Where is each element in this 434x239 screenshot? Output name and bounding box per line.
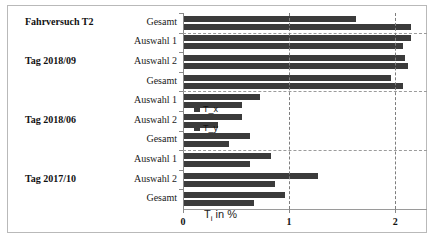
legend-swatch-t-x: [194, 106, 200, 112]
group-title: Tag 2018/06: [25, 114, 76, 125]
bar-t-x: [184, 94, 260, 100]
legend-item-t-x[interactable]: T_x: [194, 104, 248, 114]
row-label: Auswahl 1: [97, 153, 183, 164]
x-tick-label: 0: [181, 216, 186, 227]
x-tick-label: 1: [287, 216, 292, 227]
y-tick-mark: [179, 170, 183, 171]
x-axis-title-unit: in %: [213, 208, 237, 220]
y-tick-mark: [179, 72, 183, 73]
y-tick-mark: [179, 131, 183, 132]
row-label: Auswahl 2: [97, 55, 183, 66]
bar-t-x: [184, 173, 318, 179]
group-separator: [183, 33, 427, 34]
bar-t-y: [184, 83, 403, 89]
bar-t-x: [184, 55, 405, 61]
row-label: Gesamt: [97, 75, 183, 86]
bar-t-y: [184, 200, 254, 206]
x-tick-mark: [183, 209, 184, 213]
bar-t-x: [184, 75, 391, 81]
y-tick-mark: [179, 91, 183, 92]
chart-legend: T_x T_y: [194, 104, 248, 142]
y-tick-mark: [179, 189, 183, 190]
y-tick-mark: [179, 52, 183, 53]
row-label: Gesamt: [97, 133, 183, 144]
bar-t-x: [184, 153, 271, 159]
bar-t-y: [184, 161, 250, 167]
x-tick-mark: [395, 209, 396, 213]
bar-t-y: [184, 181, 275, 187]
y-axis-line: [183, 13, 184, 209]
bar-t-x: [184, 35, 411, 41]
y-tick-mark: [179, 33, 183, 34]
bar-t-y: [184, 63, 408, 69]
group-title: Fahrversuch T2: [25, 16, 93, 27]
y-tick-mark: [179, 150, 183, 151]
bar-t-y: [184, 141, 229, 147]
category-label-column: GesamtFahrversuch T2Auswahl 1Auswahl 2Ge…: [8, 6, 183, 234]
row-label: Gesamt: [97, 192, 183, 203]
row-label: Auswahl 1: [97, 94, 183, 105]
row-label: Auswahl 2: [97, 114, 183, 125]
row-label: Gesamt: [97, 16, 183, 27]
row-label: Auswahl 2: [97, 173, 183, 184]
legend-label-t-y: T_y: [203, 123, 218, 133]
x-gridline: [395, 13, 396, 209]
bar-t-y: [184, 24, 411, 30]
group-separator: [183, 91, 427, 92]
x-axis-title-main: T: [204, 208, 211, 220]
bar-t-x: [184, 16, 356, 22]
group-separator: [183, 150, 427, 151]
x-tick-label: 2: [393, 216, 398, 227]
y-tick-mark: [179, 111, 183, 112]
group-title: Tag 2017/10: [25, 173, 76, 184]
bar-t-y: [184, 43, 403, 49]
chart-figure: GesamtFahrversuch T2Auswahl 1Auswahl 2Ge…: [7, 5, 427, 233]
group-title: Tag 2018/09: [25, 55, 76, 66]
legend-swatch-t-y: [194, 125, 200, 131]
x-axis-title: Ti in %: [204, 208, 237, 223]
legend-item-t-y[interactable]: T_y: [194, 123, 248, 133]
y-tick-mark: [179, 13, 183, 14]
x-gridline: [289, 13, 290, 209]
bar-t-x: [184, 192, 285, 198]
x-tick-mark: [289, 209, 290, 213]
legend-label-t-x: T_x: [203, 104, 218, 114]
row-label: Auswahl 1: [97, 35, 183, 46]
